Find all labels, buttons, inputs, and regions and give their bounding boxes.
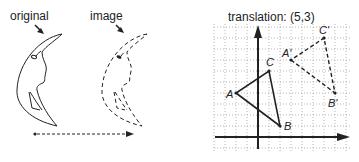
point-a-prime-label: A'	[281, 47, 292, 59]
point-c-label: C	[266, 56, 274, 68]
original-moon-shape	[17, 34, 62, 126]
point-a-label: A	[225, 88, 233, 100]
original-pointer-arrow	[35, 25, 44, 34]
dotted-grid	[214, 24, 350, 152]
x-axis	[215, 133, 350, 141]
image-pointer-arrow	[116, 25, 124, 33]
translation-title: translation: (5,3)	[228, 10, 315, 24]
image-moon-shape	[102, 34, 147, 126]
original-label: original	[10, 9, 49, 23]
triangle-translation-diagram: translation: (5,3)	[210, 0, 359, 162]
y-axis	[254, 25, 262, 149]
point-b-prime-label: B'	[328, 97, 338, 109]
moon-translation-diagram: original image	[0, 0, 180, 162]
image-triangle	[289, 36, 336, 94]
image-label: image	[90, 9, 123, 23]
point-c-prime-label: C'	[319, 24, 330, 36]
point-b-label: B	[284, 120, 291, 132]
translation-arrow	[33, 131, 134, 137]
